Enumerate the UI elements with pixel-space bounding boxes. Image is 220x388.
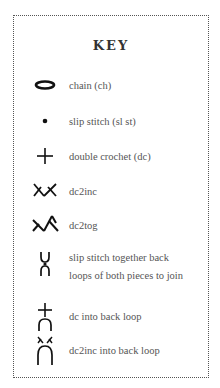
chain-icon — [28, 79, 62, 91]
dc2tog-icon — [28, 213, 62, 235]
key-item-label: dc2inc into back loop — [69, 342, 202, 360]
key-item-dc2tog: dc2tog — [14, 213, 208, 237]
key-item-label-line1: slip stitch together back — [69, 249, 202, 267]
key-item-double-crochet: double crochet (dc) — [14, 146, 208, 168]
key-box: KEY chain (ch) slip stitch (sl st) doubl… — [13, 15, 209, 378]
slip-stitch-icon — [28, 116, 62, 126]
slip-stitch-together-back-loops-icon — [28, 251, 62, 277]
dc2inc-back-loop-icon — [28, 335, 62, 367]
key-item-dc2inc-back-loop: dc2inc into back loop — [14, 335, 208, 367]
key-item-dc-back-loop: dc into back loop — [14, 301, 208, 333]
key-item-dc2inc: dc2inc — [14, 181, 208, 203]
key-item-chain: chain (ch) — [14, 76, 208, 96]
dc-back-loop-icon — [28, 301, 62, 333]
key-item-label: dc2inc — [69, 183, 202, 201]
key-item-label: slip stitch together back loops of both … — [69, 249, 202, 285]
key-item-slip-stitch-together: slip stitch together back loops of both … — [14, 249, 208, 289]
key-item-label-line2: loops of both pieces to join — [69, 267, 202, 285]
key-item-label: chain (ch) — [69, 77, 202, 95]
key-item-label: dc into back loop — [69, 308, 202, 326]
double-crochet-icon — [28, 146, 62, 166]
key-title: KEY — [14, 38, 208, 53]
key-item-label: dc2tog — [69, 217, 202, 235]
dc2inc-icon — [28, 181, 62, 199]
key-item-label: double crochet (dc) — [69, 148, 202, 166]
key-item-slip-stitch: slip stitch (sl st) — [14, 112, 208, 132]
key-item-label: slip stitch (sl st) — [69, 113, 202, 131]
